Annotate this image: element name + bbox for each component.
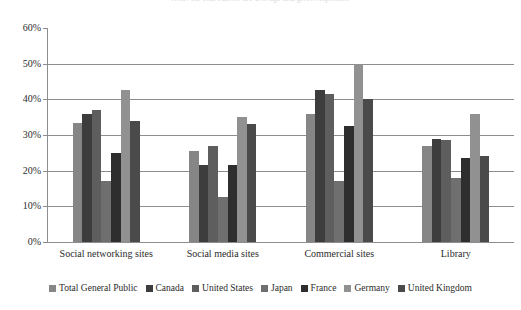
y-tick-mark-0 xyxy=(43,242,48,243)
y-tick-label-50%: 50% xyxy=(1,59,41,69)
legend-label: Germany xyxy=(354,283,389,293)
bar xyxy=(315,90,325,242)
legend-swatch-icon xyxy=(344,285,351,292)
x-axis-label: Social networking sites xyxy=(48,248,165,260)
bar xyxy=(218,197,228,242)
legend-item[interactable]: United States xyxy=(192,283,253,293)
y-tick-label-30%: 30% xyxy=(1,130,41,140)
gridline-0 xyxy=(48,242,514,243)
x-axis-label: Social media sites xyxy=(165,248,282,260)
bar xyxy=(306,114,316,242)
legend-swatch-icon xyxy=(261,285,268,292)
y-tick-mark-10 xyxy=(43,206,48,207)
legend-swatch-icon xyxy=(192,285,199,292)
bar xyxy=(130,121,140,242)
legend-swatch-icon xyxy=(301,285,308,292)
bar xyxy=(432,139,442,242)
y-tick-mark-20 xyxy=(43,171,48,172)
bar xyxy=(441,140,451,242)
bar xyxy=(208,146,218,242)
bar xyxy=(422,146,432,242)
bar-group xyxy=(48,28,165,242)
bar xyxy=(470,114,480,242)
bar xyxy=(199,165,209,242)
bar xyxy=(354,64,364,242)
y-axis-labels: 0%10%20%30%40%50%60% xyxy=(0,0,41,310)
bar xyxy=(228,165,238,242)
legend-label: United Kingdom xyxy=(408,283,472,293)
chart-title: Note: the chart above are average and gi… xyxy=(0,0,521,3)
legend-item[interactable]: Japan xyxy=(261,283,293,293)
bar xyxy=(92,110,102,242)
bar xyxy=(82,114,92,242)
legend-label: United States xyxy=(202,283,253,293)
bar xyxy=(237,117,247,242)
plot-area xyxy=(48,28,514,242)
legend-label: Japan xyxy=(271,283,293,293)
y-tick-label-40%: 40% xyxy=(1,94,41,104)
legend-item[interactable]: United Kingdom xyxy=(398,283,472,293)
y-tick-label-10%: 10% xyxy=(1,201,41,211)
y-tick-mark-30 xyxy=(43,135,48,136)
bar xyxy=(101,181,111,242)
bar xyxy=(111,153,121,242)
y-tick-mark-60 xyxy=(43,28,48,29)
legend-swatch-icon xyxy=(146,285,153,292)
bar xyxy=(344,126,354,242)
y-tick-label-20%: 20% xyxy=(1,166,41,176)
bar xyxy=(461,158,471,242)
bar xyxy=(325,94,335,242)
y-tick-mark-40 xyxy=(43,99,48,100)
bar xyxy=(189,151,199,242)
bar-group xyxy=(281,28,398,242)
bar-group xyxy=(165,28,282,242)
bar xyxy=(73,123,83,242)
bar-chart: Note: the chart above are average and gi… xyxy=(0,0,521,310)
legend-item[interactable]: Canada xyxy=(146,283,185,293)
legend-item[interactable]: Total General Public xyxy=(49,283,137,293)
bar xyxy=(451,178,461,242)
x-axis-labels: Social networking sitesSocial media site… xyxy=(48,248,514,264)
legend-item[interactable]: Germany xyxy=(344,283,389,293)
bar xyxy=(334,181,344,242)
bar xyxy=(247,124,257,242)
legend-item[interactable]: France xyxy=(301,283,337,293)
legend-label: France xyxy=(311,283,337,293)
legend-swatch-icon xyxy=(49,285,56,292)
bar-group xyxy=(398,28,515,242)
legend-label: Canada xyxy=(156,283,185,293)
y-tick-mark-50 xyxy=(43,64,48,65)
bar xyxy=(121,90,131,242)
x-axis-label: Library xyxy=(398,248,515,260)
x-axis-label: Commercial sites xyxy=(281,248,398,260)
y-tick-label-60%: 60% xyxy=(1,23,41,33)
chart-legend: Total General PublicCanadaUnited StatesJ… xyxy=(0,283,521,293)
y-tick-label-0%: 0% xyxy=(1,237,41,247)
bar xyxy=(480,156,490,242)
bar xyxy=(363,99,373,242)
legend-swatch-icon xyxy=(398,285,405,292)
legend-label: Total General Public xyxy=(59,283,137,293)
